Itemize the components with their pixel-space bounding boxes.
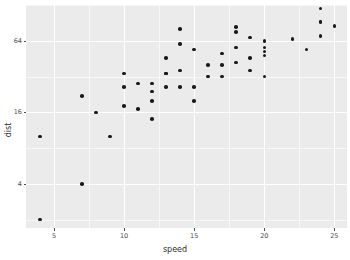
data-point (248, 56, 252, 60)
data-point (38, 135, 42, 139)
grid-major-horizontal (26, 112, 347, 113)
grid-major-horizontal (26, 41, 347, 42)
y-axis-tick-label: 4 (18, 181, 22, 188)
y-axis-tick-mark (24, 41, 27, 42)
data-point (164, 85, 168, 89)
data-point (178, 42, 182, 46)
x-axis-tick-mark (54, 228, 55, 231)
data-point (263, 39, 267, 43)
x-axis-tick-mark (194, 228, 195, 231)
data-point (248, 69, 252, 73)
data-point (263, 50, 267, 54)
data-point (150, 117, 154, 121)
data-point (206, 75, 210, 79)
data-point (319, 7, 323, 11)
plot-panel (26, 5, 347, 228)
y-axis-tick-mark (24, 112, 27, 113)
data-point (150, 99, 154, 103)
data-point (192, 48, 196, 52)
data-point (164, 56, 168, 60)
grid-major-vertical (124, 5, 125, 228)
x-axis-tick-label: 5 (52, 233, 56, 240)
data-point (192, 85, 196, 89)
data-point (234, 25, 238, 29)
x-axis-tick-mark (334, 228, 335, 231)
data-point (150, 90, 154, 94)
grid-minor-vertical (229, 5, 230, 228)
data-point (333, 24, 337, 28)
x-axis-tick-label: 10 (120, 233, 128, 240)
data-point (305, 48, 309, 52)
y-axis-tick-label: 16 (14, 109, 22, 116)
data-point (122, 72, 126, 76)
grid-minor-vertical (159, 5, 160, 228)
y-axis-tick-mark (24, 184, 27, 185)
grid-minor-horizontal (26, 77, 347, 78)
data-point (178, 85, 182, 89)
data-point (234, 61, 238, 65)
data-point (80, 182, 84, 186)
data-point (136, 82, 140, 86)
data-point (248, 36, 252, 40)
data-point (178, 69, 182, 73)
x-axis-tick-label: 25 (330, 233, 338, 240)
y-axis-title: dist (5, 123, 13, 138)
data-point (234, 30, 238, 34)
x-axis-tick-label: 15 (190, 233, 198, 240)
data-point (94, 111, 98, 115)
grid-major-horizontal (26, 184, 347, 185)
data-point (38, 218, 42, 222)
data-point (178, 27, 182, 31)
x-axis-tick-label: 20 (260, 233, 268, 240)
data-point (263, 75, 267, 79)
x-axis-title: speed (0, 246, 350, 254)
grid-major-vertical (334, 5, 335, 228)
data-point (150, 82, 154, 86)
data-point (108, 135, 112, 139)
data-point (122, 104, 126, 108)
data-point (80, 94, 84, 98)
data-point (206, 63, 210, 67)
data-point (220, 52, 224, 56)
data-point (319, 34, 323, 38)
x-axis-tick-mark (124, 228, 125, 231)
data-point (122, 85, 126, 89)
grid-minor-vertical (89, 5, 90, 228)
data-point (263, 54, 267, 58)
grid-minor-horizontal (26, 5, 347, 6)
y-axis-tick-label: 64 (14, 38, 22, 45)
data-point (220, 75, 224, 79)
data-point (234, 46, 238, 50)
data-point (291, 37, 295, 41)
grid-minor-horizontal (26, 148, 347, 149)
data-point (220, 63, 224, 67)
grid-major-vertical (54, 5, 55, 228)
data-point (192, 99, 196, 103)
grid-major-vertical (194, 5, 195, 228)
data-point (263, 46, 267, 50)
data-point (164, 72, 168, 76)
grid-minor-vertical (299, 5, 300, 228)
data-point (136, 107, 140, 111)
scatter-plot-figure: dist speed 41664510152025 (0, 0, 350, 260)
x-axis-tick-mark (264, 228, 265, 231)
grid-minor-horizontal (26, 220, 347, 221)
